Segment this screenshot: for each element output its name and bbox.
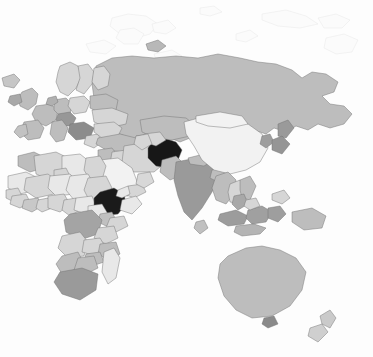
world-map[interactable]	[0, 0, 373, 357]
map-canvas[interactable]	[0, 0, 373, 357]
